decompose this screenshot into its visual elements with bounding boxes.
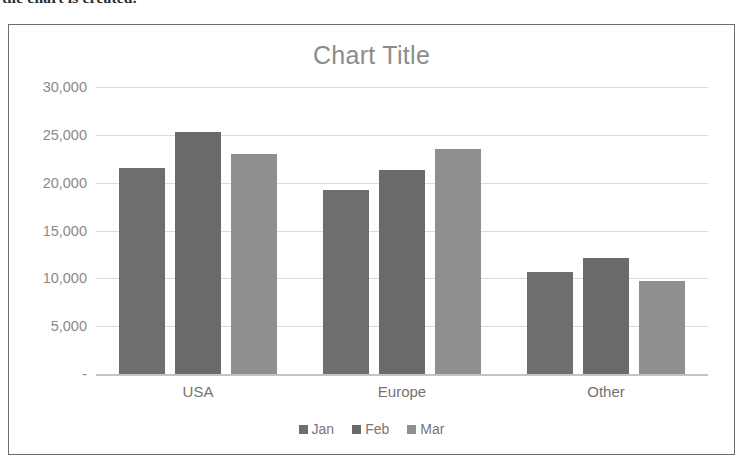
y-axis-tick-label: 25,000 xyxy=(43,127,87,143)
legend-swatch-icon xyxy=(407,425,416,434)
legend-swatch-icon xyxy=(352,425,361,434)
legend-label: Jan xyxy=(312,421,335,437)
y-axis-tick-label: 30,000 xyxy=(43,79,87,95)
x-axis-category-label: Other xyxy=(587,383,625,400)
legend-label: Mar xyxy=(420,421,444,437)
bar[interactable] xyxy=(379,170,425,374)
bar[interactable] xyxy=(527,272,573,374)
x-axis-category-label: USA xyxy=(183,383,214,400)
y-axis-tick-label: - xyxy=(82,366,87,382)
bar[interactable] xyxy=(175,132,221,374)
legend-item[interactable]: Mar xyxy=(407,421,444,437)
document-cutoff-text-line: the chart is created. xyxy=(0,0,750,5)
bar[interactable] xyxy=(583,258,629,374)
bar[interactable] xyxy=(323,190,369,374)
legend-swatch-icon xyxy=(299,425,308,434)
bars-layer xyxy=(96,87,708,374)
bar[interactable] xyxy=(435,149,481,374)
y-axis-tick-label: 15,000 xyxy=(43,223,87,239)
legend-item[interactable]: Feb xyxy=(352,421,389,437)
y-axis-tick-label: 5,000 xyxy=(51,318,87,334)
plot-area: 30,00025,00020,00015,00010,0005,000- xyxy=(96,87,708,374)
legend-item[interactable]: Jan xyxy=(299,421,335,437)
x-axis-category-labels: USAEuropeOther xyxy=(96,383,708,409)
x-axis-line xyxy=(96,374,708,376)
document-cutoff-text: the chart is created. xyxy=(0,0,750,5)
bar[interactable] xyxy=(119,168,165,374)
chart-title[interactable]: Chart Title xyxy=(9,41,734,70)
chart-frame[interactable]: Chart Title 30,00025,00020,00015,00010,0… xyxy=(8,24,735,455)
bar[interactable] xyxy=(639,281,685,374)
chart-legend[interactable]: JanFebMar xyxy=(9,421,734,437)
y-axis-tick-label: 10,000 xyxy=(43,270,87,286)
bar[interactable] xyxy=(231,154,277,374)
y-axis-tick-label: 20,000 xyxy=(43,175,87,191)
legend-label: Feb xyxy=(365,421,389,437)
x-axis-category-label: Europe xyxy=(378,383,426,400)
